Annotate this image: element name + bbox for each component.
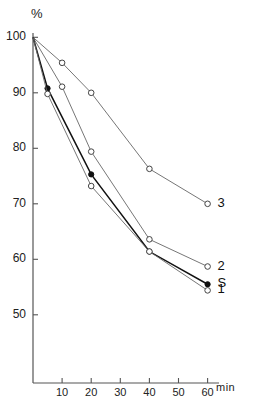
series-line-S (33, 37, 208, 284)
series-2 (33, 37, 210, 269)
y-axis-ticks (33, 37, 38, 315)
x-tick-label: 30 (109, 386, 131, 398)
y-tick-label: 80 (0, 140, 26, 154)
data-point-1 (205, 288, 211, 294)
series-line-1 (33, 37, 208, 290)
x-axis-ticks (62, 378, 208, 383)
y-tick-label: 50 (0, 307, 26, 321)
data-point-S (205, 282, 210, 287)
data-point-2 (147, 237, 153, 243)
y-tick-label: 60 (0, 251, 26, 265)
chart-figure: % min 5060708090100 102030405060 32S1 (0, 0, 263, 412)
x-tick-label: 50 (168, 386, 190, 398)
data-point-3 (59, 60, 65, 66)
series-label-1: 1 (218, 281, 225, 296)
data-point-3 (205, 201, 211, 207)
data-series-layer (33, 37, 210, 293)
x-tick-label: 20 (80, 386, 102, 398)
data-point-S (89, 172, 94, 177)
data-point-1 (88, 183, 94, 189)
data-point-2 (88, 149, 94, 155)
series-label-2: 2 (218, 258, 225, 273)
series-1 (33, 37, 210, 293)
y-tick-label: 70 (0, 196, 26, 210)
data-point-1 (45, 91, 51, 97)
data-point-3 (147, 166, 153, 172)
x-tick-label: 60 (197, 386, 219, 398)
y-tick-label: 90 (0, 85, 26, 99)
data-point-1 (147, 249, 153, 255)
data-point-2 (205, 264, 211, 270)
series-S (33, 37, 210, 287)
x-tick-label: 40 (138, 386, 160, 398)
series-label-3: 3 (218, 195, 225, 210)
x-tick-label: 10 (51, 386, 73, 398)
y-tick-label: 100 (0, 29, 26, 43)
series-3 (33, 37, 210, 206)
data-point-2 (59, 84, 65, 90)
series-line-2 (33, 37, 208, 266)
data-point-3 (88, 90, 94, 96)
